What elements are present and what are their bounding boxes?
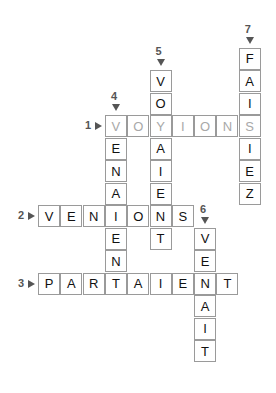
grid-cell[interactable]: T [105,273,127,295]
grid-cell[interactable]: A [150,138,172,160]
grid-cell[interactable]: N [216,115,238,137]
grid-cell[interactable]: Y [150,115,172,137]
grid-cell[interactable]: A [239,70,261,92]
clue-number-6: 6 [200,204,206,215]
arrow-down-icon [157,59,165,66]
grid-cell[interactable]: R [83,273,105,295]
clue-number-7: 7 [245,24,251,35]
grid-cell[interactable]: N [194,273,216,295]
clue-number-1: 1 [85,120,91,131]
crossword-board: 1234567VOYIONSVENIONSPARTAIENTENAENVOAIE… [0,0,276,393]
grid-cell[interactable]: I [194,318,216,340]
grid-cell[interactable]: I [239,93,261,115]
grid-cell[interactable]: E [172,273,194,295]
grid-cell[interactable]: O [194,115,216,137]
grid-cell[interactable]: A [105,183,127,205]
grid-cell[interactable]: F [239,48,261,70]
grid-cell[interactable]: Z [239,183,261,205]
grid-cell[interactable]: I [150,273,172,295]
grid-cell[interactable]: V [38,205,60,227]
grid-cell[interactable]: E [194,250,216,272]
grid-cell[interactable]: N [83,205,105,227]
arrow-down-icon [201,217,209,224]
arrow-right-icon [28,280,35,288]
grid-cell[interactable]: V [194,228,216,250]
grid-cell[interactable]: I [172,115,194,137]
grid-cell[interactable]: T [216,273,238,295]
grid-cell[interactable]: O [150,93,172,115]
grid-cell[interactable]: A [60,273,82,295]
grid-cell[interactable]: O [127,205,149,227]
clue-number-4: 4 [111,91,117,102]
grid-cell[interactable]: N [105,250,127,272]
grid-cell[interactable]: N [150,205,172,227]
grid-cell[interactable]: T [194,340,216,362]
grid-cell[interactable]: O [127,115,149,137]
clue-number-3: 3 [18,278,24,289]
grid-cell[interactable]: E [239,160,261,182]
grid-cell[interactable]: I [150,160,172,182]
arrow-right-icon [28,212,35,220]
grid-cell[interactable]: E [105,138,127,160]
grid-cell[interactable]: A [127,273,149,295]
clue-number-5: 5 [156,46,162,57]
grid-cell[interactable]: V [150,70,172,92]
grid-cell[interactable]: S [172,205,194,227]
grid-cell[interactable]: I [239,138,261,160]
grid-cell[interactable]: A [194,295,216,317]
grid-cell[interactable]: E [150,183,172,205]
grid-cell[interactable]: I [105,205,127,227]
clue-number-2: 2 [18,210,24,221]
arrow-down-icon [112,104,120,111]
grid-cell[interactable]: S [239,115,261,137]
grid-cell[interactable]: T [150,228,172,250]
grid-cell[interactable]: P [38,273,60,295]
arrow-right-icon [95,122,102,130]
grid-cell[interactable]: N [105,160,127,182]
grid-cell[interactable]: E [60,205,82,227]
grid-cell[interactable]: V [105,115,127,137]
grid-cell[interactable]: E [105,228,127,250]
arrow-down-icon [246,37,254,44]
